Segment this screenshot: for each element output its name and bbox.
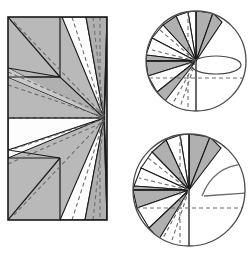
crease-pattern-panel xyxy=(8,17,107,220)
diagram-canvas xyxy=(0,0,251,254)
step-2-circle-panel xyxy=(133,134,248,246)
origami-figure xyxy=(0,0,251,254)
step-1-circle-panel xyxy=(146,11,246,111)
